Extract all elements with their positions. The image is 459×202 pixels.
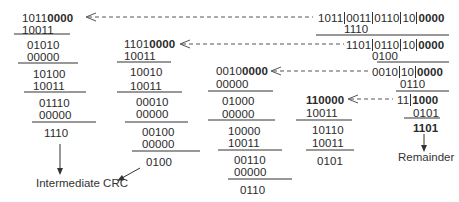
arrow-to-intermediate-crc	[57, 144, 63, 175]
column-result: 1110	[44, 127, 68, 139]
segment: 11	[397, 94, 409, 106]
dashed-arrow-col1	[86, 13, 313, 21]
dividend: 10110000	[22, 12, 73, 24]
separator	[399, 66, 400, 78]
step: 10011	[22, 24, 54, 36]
step: 00110	[234, 154, 266, 166]
dashed-arrow-col3	[271, 67, 368, 75]
step: 10011	[130, 80, 162, 92]
step: 00000	[27, 51, 59, 63]
step: 01110	[39, 97, 70, 109]
step: 10011	[228, 137, 260, 149]
message-row-3: 0010100000	[372, 66, 443, 78]
segment: 10	[401, 66, 414, 78]
step: 00000	[216, 78, 248, 90]
segment-bold: 1000	[412, 94, 438, 106]
step: 10011	[306, 107, 338, 119]
step: 00000	[234, 166, 266, 178]
xor-value: 0110	[400, 78, 425, 90]
dividend-plain: 0010	[216, 65, 242, 77]
segment: 1101	[346, 39, 371, 51]
step: 10110	[312, 124, 344, 136]
intermediate-crc-label: Intermediate CRC	[36, 177, 128, 189]
separator	[410, 94, 411, 106]
arrow-to-remainder	[421, 134, 427, 152]
column-result: 0110	[240, 184, 265, 196]
column-result: 0101	[317, 155, 343, 167]
dividend: 00100000	[216, 65, 268, 77]
dividend-bold: 0000	[47, 12, 73, 24]
dividend-bold: 0000	[242, 65, 268, 77]
dividend: 11010000	[124, 38, 175, 50]
xor-value: 1110	[344, 23, 368, 35]
step: 10011	[33, 80, 65, 92]
segment: 0010	[372, 66, 398, 78]
step: 10000	[228, 125, 260, 137]
dashed-arrow-col2	[180, 40, 344, 48]
step: 00100	[142, 126, 174, 138]
final-remainder-value: 1101	[413, 122, 438, 134]
segment-bold: 0000	[417, 66, 443, 78]
segment: 1011	[318, 12, 343, 24]
segment-bold: 0000	[418, 39, 444, 51]
step: 01000	[222, 95, 254, 107]
xor-value: 0101	[413, 107, 439, 119]
step: 10010	[130, 66, 162, 78]
dividend-plain: 1011	[22, 12, 47, 24]
segment: 10	[402, 12, 415, 24]
xor-value: 0100	[372, 50, 398, 62]
message-row-4: 111000	[397, 94, 438, 106]
step: 00000	[136, 108, 168, 120]
step: 10011	[124, 50, 156, 62]
dividend: 110000	[306, 94, 344, 106]
column-result: 0100	[146, 156, 172, 168]
segment: 0110	[374, 12, 399, 24]
step: 00000	[222, 108, 254, 120]
dashed-arrow-col4	[348, 95, 393, 103]
step: 10100	[33, 68, 65, 80]
step: 00010	[136, 96, 168, 108]
step: 00000	[39, 109, 71, 121]
step: 01010	[27, 39, 59, 51]
separator	[415, 66, 416, 78]
segment-bold: 0000	[418, 12, 444, 24]
dividend-plain: 1101	[124, 38, 149, 50]
dividend-bold: 0000	[149, 38, 175, 50]
step: 00000	[142, 138, 174, 150]
segment: 10	[402, 39, 415, 51]
remainder-label: Remainder	[398, 151, 454, 163]
message-row-1: 101100110110100000	[318, 12, 444, 24]
step: 10011	[312, 137, 344, 149]
